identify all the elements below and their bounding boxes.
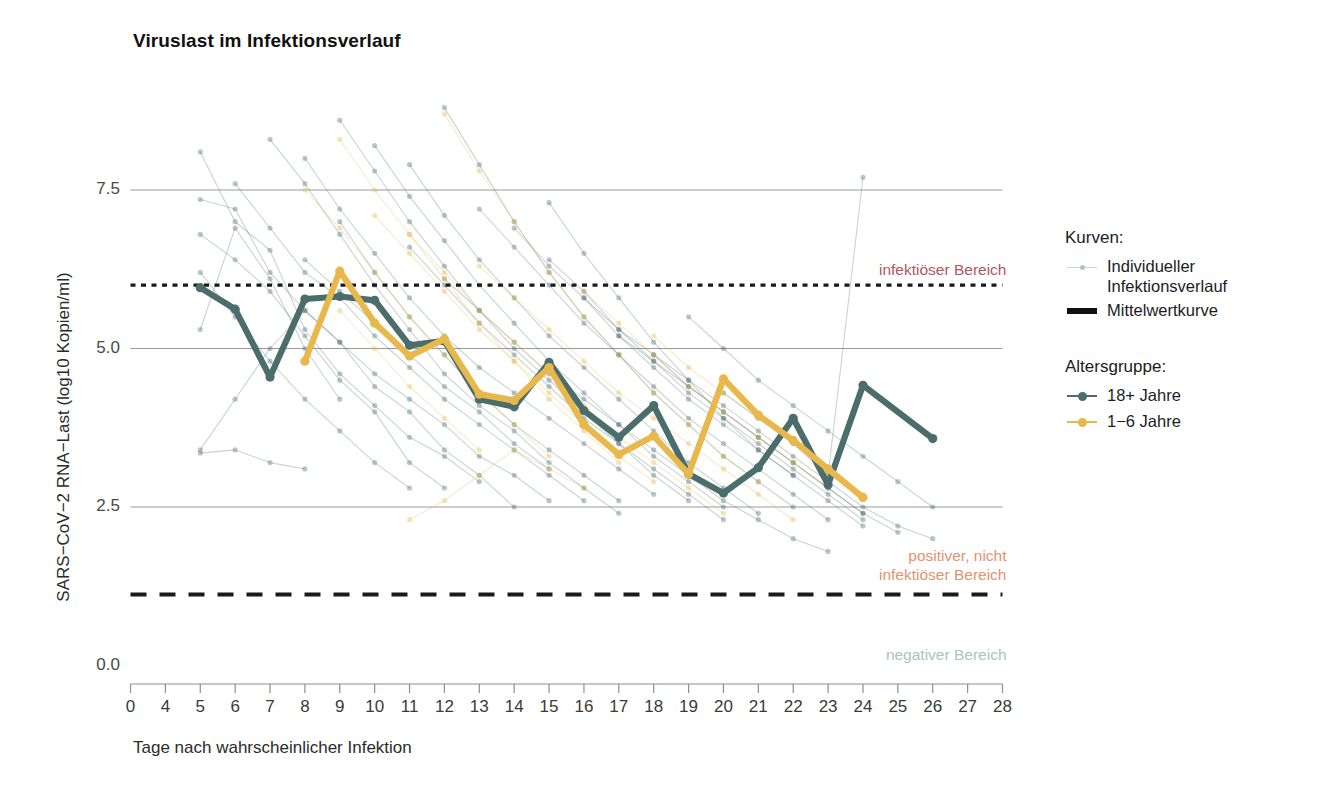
legend-item-mean[interactable]: Mittelwertkurve	[1065, 301, 1320, 322]
individual-point	[581, 321, 586, 326]
individual-point	[756, 492, 761, 497]
x-tick-label-0: 0	[114, 697, 148, 717]
individual-point	[442, 289, 447, 294]
individual-point	[442, 498, 447, 503]
individual-point	[546, 270, 551, 275]
individual-point	[756, 441, 761, 446]
individual-point	[930, 536, 935, 541]
y-tick-label-0.0: 0.0	[68, 655, 120, 675]
individual-point	[477, 473, 482, 478]
individual-point	[477, 168, 482, 173]
mean-point	[370, 296, 379, 305]
individual-point	[581, 295, 586, 300]
individual-point	[477, 365, 482, 370]
y-tick-label-5.0: 5.0	[68, 338, 120, 358]
x-tick-label-21: 21	[741, 697, 775, 717]
individual-point	[756, 517, 761, 522]
individual-curve	[200, 450, 305, 469]
band-label-negative: negativer Bereich	[800, 645, 1007, 664]
individual-point	[198, 270, 203, 275]
mean-point	[858, 493, 867, 502]
mean-point	[510, 396, 519, 405]
legend-item-individual[interactable]: Individueller Infektionsverlauf	[1065, 257, 1320, 296]
individual-point	[721, 498, 726, 503]
individual-point	[686, 365, 691, 370]
mean-point	[300, 294, 309, 303]
x-tick-label-11: 11	[393, 697, 427, 717]
individual-point	[686, 416, 691, 421]
individual-point	[442, 263, 447, 268]
individual-point	[442, 270, 447, 275]
legend-item-children[interactable]: 1−6 Jahre	[1065, 412, 1320, 433]
individual-point	[233, 219, 238, 224]
individual-point	[337, 137, 342, 142]
individual-point	[442, 213, 447, 218]
mean-point	[335, 292, 344, 301]
x-tick-label-18: 18	[637, 697, 671, 717]
individual-point	[721, 454, 726, 459]
individual-point	[651, 460, 656, 465]
individual-point	[512, 504, 517, 509]
band-label-infectious: infektiöser Bereich	[800, 260, 1007, 279]
individual-curve	[444, 108, 793, 507]
individual-point	[372, 143, 377, 148]
individual-point	[651, 359, 656, 364]
mean-point	[789, 414, 798, 423]
individual-point	[512, 428, 517, 433]
individual-point	[860, 517, 865, 522]
individual-point	[407, 219, 412, 224]
individual-point	[477, 206, 482, 211]
mean-point	[231, 305, 240, 314]
individual-point	[198, 451, 203, 456]
individual-point	[616, 295, 621, 300]
individual-point	[442, 371, 447, 376]
individual-point	[686, 441, 691, 446]
individual-point	[198, 197, 203, 202]
x-tick-label-4: 4	[148, 697, 182, 717]
individual-point	[477, 447, 482, 452]
individual-point	[337, 308, 342, 313]
individual-curve	[410, 165, 759, 514]
individual-point	[407, 485, 412, 490]
individual-point	[581, 498, 586, 503]
individual-point	[826, 517, 831, 522]
individual-point	[546, 257, 551, 262]
individual-point	[372, 409, 377, 414]
individual-point	[477, 321, 482, 326]
individual-point	[581, 365, 586, 370]
individual-point	[651, 333, 656, 338]
individual-point	[442, 238, 447, 243]
individual-point	[791, 492, 796, 497]
x-tick-label-19: 19	[672, 697, 706, 717]
individual-point	[512, 422, 517, 427]
individual-point	[616, 397, 621, 402]
individual-point	[372, 251, 377, 256]
individual-point	[581, 359, 586, 364]
x-tick-label-13: 13	[462, 697, 496, 717]
mean-point	[544, 363, 553, 372]
individual-point	[651, 479, 656, 484]
individual-point	[651, 454, 656, 459]
mean-line-icon	[1065, 301, 1099, 322]
individual-point	[302, 257, 307, 262]
individual-point	[686, 390, 691, 395]
legend-label-children: 1−6 Jahre	[1107, 412, 1181, 432]
individual-point	[233, 206, 238, 211]
legend-item-adults[interactable]: 18+ Jahre	[1065, 386, 1320, 407]
individual-point	[791, 517, 796, 522]
mean-point	[196, 283, 205, 292]
individual-point	[267, 346, 272, 351]
individual-point	[372, 333, 377, 338]
x-tick-label-5: 5	[183, 697, 217, 717]
x-tick-label-10: 10	[358, 697, 392, 717]
individual-point	[651, 352, 656, 357]
mean-point	[719, 488, 728, 497]
individual-point	[198, 232, 203, 237]
individual-point	[546, 327, 551, 332]
legend-label-individual: Individueller Infektionsverlauf	[1107, 257, 1227, 296]
individual-point	[337, 206, 342, 211]
x-tick-label-26: 26	[916, 697, 950, 717]
x-tick-label-25: 25	[881, 697, 915, 717]
individual-point	[442, 276, 447, 281]
individual-point	[477, 422, 482, 427]
